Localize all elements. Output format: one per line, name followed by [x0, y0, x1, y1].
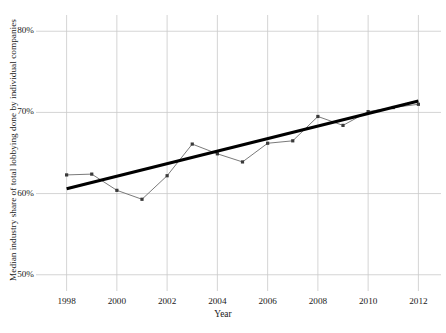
y-tick-label: 80% — [0, 25, 34, 35]
data-series-markers — [65, 103, 420, 201]
data-point-marker — [90, 173, 93, 176]
x-tick-label: 2004 — [197, 296, 237, 306]
y-gridlines — [36, 31, 441, 275]
data-point-marker — [266, 142, 269, 145]
x-axis-label-text: Year — [0, 309, 446, 319]
data-point-marker — [341, 124, 344, 127]
data-point-marker — [140, 198, 143, 201]
data-point-marker — [191, 142, 194, 145]
x-tick-label: 2012 — [398, 296, 438, 306]
y-tick-label: 70% — [0, 106, 34, 116]
data-point-marker — [115, 189, 118, 192]
chart-plot-area — [0, 0, 446, 333]
chart-figure: Median industry share of total lobbying … — [0, 0, 446, 333]
x-tick-label: 2002 — [147, 296, 187, 306]
x-tick-label: 2006 — [248, 296, 288, 306]
x-tick-label: 2000 — [97, 296, 137, 306]
y-tick-label: 50% — [0, 269, 34, 279]
data-series-line — [67, 104, 419, 199]
y-tick-label: 60% — [0, 188, 34, 198]
x-gridlines — [67, 15, 419, 291]
data-point-marker — [241, 160, 244, 163]
data-point-marker — [417, 103, 420, 106]
x-tick-label: 1998 — [47, 296, 87, 306]
trend-line — [67, 101, 419, 189]
data-point-marker — [166, 174, 169, 177]
x-tick-label: 2008 — [298, 296, 338, 306]
x-tick-label: 2010 — [348, 296, 388, 306]
data-point-marker — [316, 115, 319, 118]
data-point-marker — [291, 139, 294, 142]
data-point-marker — [65, 173, 68, 176]
